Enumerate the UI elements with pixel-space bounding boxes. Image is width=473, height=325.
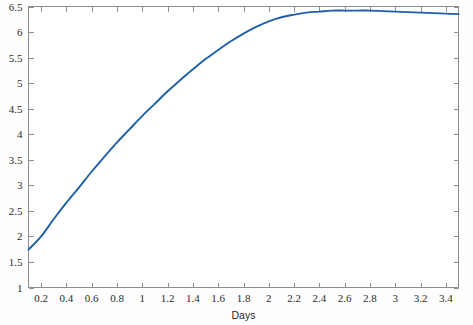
y-tick-label: 5 (17, 77, 23, 89)
y-tick-label: 2 (17, 230, 23, 242)
x-tick-label: 1.4 (186, 292, 200, 304)
x-axis-title: Days (232, 309, 256, 321)
x-tick-label: 2.8 (363, 292, 377, 304)
x-tick-label: 0.4 (60, 292, 74, 304)
x-tick-label: 1 (140, 292, 146, 304)
y-tick-label: 2.5 (9, 205, 23, 217)
x-tick-label: 2.6 (338, 292, 352, 304)
y-tick-label: 5.5 (9, 52, 23, 64)
plot-area-background (29, 7, 459, 288)
x-tick-label: 3 (393, 292, 399, 304)
y-tick-label: 3.5 (9, 154, 23, 166)
x-tick-label: 3.2 (414, 292, 428, 304)
y-tick-label: 1.5 (9, 256, 23, 268)
y-tick-label: 1 (17, 282, 23, 294)
x-tick-label: 0.2 (34, 292, 48, 304)
line-chart: 0.20.40.60.811.21.41.61.822.22.42.62.833… (0, 0, 473, 325)
x-tick-label: 1.8 (237, 292, 251, 304)
x-tick-label: 1.2 (161, 292, 175, 304)
y-tick-label: 4 (17, 128, 23, 140)
y-tick-label: 6.5 (9, 1, 23, 13)
y-tick-label: 6 (17, 26, 23, 38)
x-tick-label: 0.6 (85, 292, 99, 304)
chart-figure-window: 0.20.40.60.811.21.41.61.822.22.42.62.833… (0, 0, 473, 325)
x-tick-label: 0.8 (110, 292, 124, 304)
x-tick-label: 2.2 (287, 292, 301, 304)
x-tick-label: 3.4 (439, 292, 453, 304)
x-tick-label: 2 (266, 292, 272, 304)
x-tick-label: 1.6 (211, 292, 225, 304)
y-tick-label: 4.5 (9, 103, 23, 115)
x-tick-label: 2.4 (313, 292, 327, 304)
y-tick-label: 3 (17, 179, 23, 191)
